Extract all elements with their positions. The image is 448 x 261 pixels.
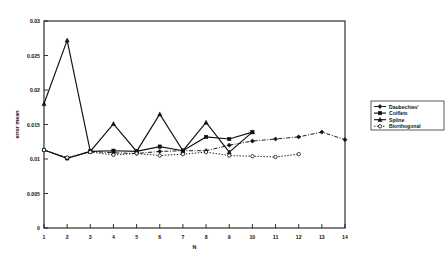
y-tick-label: 0.02 [30, 87, 40, 93]
data-point-marker [181, 152, 184, 155]
y-tick-label: 0.025 [27, 53, 40, 59]
x-tick-label: 11 [273, 234, 279, 240]
x-tick-label: 1 [43, 234, 46, 240]
y-tick-label: 0 [37, 225, 40, 231]
data-point-marker [65, 156, 68, 159]
data-point-marker [158, 145, 161, 148]
data-point-marker [89, 150, 92, 153]
data-point-marker [378, 125, 381, 128]
series-daubechies- [42, 130, 347, 160]
x-tick-label: 7 [181, 234, 184, 240]
data-point-marker [111, 122, 115, 126]
data-point-marker [204, 150, 207, 153]
data-point-marker [378, 111, 381, 114]
data-point-marker [42, 148, 45, 151]
data-point-marker [228, 154, 231, 157]
data-point-marker [227, 143, 231, 147]
data-point-marker [274, 155, 277, 158]
legend-label: Daubechies' [389, 104, 419, 110]
legend-label: Spline [389, 117, 404, 123]
x-tick-label: 8 [205, 234, 208, 240]
data-point-marker [158, 112, 162, 116]
legend: Daubechies'CoifletsSplineBiorthogonal [371, 101, 444, 130]
x-tick-label: 2 [66, 234, 69, 240]
x-tick-label: 14 [342, 234, 348, 240]
data-point-marker [250, 139, 254, 143]
data-point-marker [320, 130, 324, 134]
y-tick-label: 0.01 [30, 156, 40, 162]
legend-label: Coiflets [389, 110, 408, 116]
x-axis-title: N [193, 244, 197, 250]
series-line [44, 150, 299, 158]
x-tick-label: 3 [89, 234, 92, 240]
x-tick-label: 10 [249, 234, 255, 240]
x-tick-label: 12 [296, 234, 302, 240]
series-coiflets [42, 130, 254, 160]
data-point-marker [204, 120, 208, 124]
data-point-marker [204, 135, 207, 138]
series-line [44, 40, 252, 152]
data-point-marker [343, 138, 347, 142]
legend-label: Biorthogonal [389, 123, 421, 129]
x-tick-label: 13 [319, 234, 325, 240]
y-tick-label: 0.03 [30, 18, 40, 24]
error-mean-vs-n-line-chart: 00.0050.010.0150.020.0250.03123456789101… [0, 0, 448, 261]
data-point-marker [158, 154, 161, 157]
data-point-marker [273, 137, 277, 141]
data-point-marker [65, 38, 69, 42]
x-tick-label: 6 [158, 234, 161, 240]
data-point-marker [297, 135, 301, 139]
series-spline [42, 38, 255, 154]
x-tick-label: 4 [112, 234, 115, 240]
data-point-marker [297, 152, 300, 155]
data-point-marker [112, 153, 115, 156]
data-point-marker [135, 152, 138, 155]
data-point-marker [158, 149, 162, 153]
data-point-marker [251, 155, 254, 158]
x-tick-label: 5 [135, 234, 138, 240]
plot-frame [44, 21, 345, 228]
y-axis-title: error mean [14, 110, 20, 138]
x-tick-label: 9 [228, 234, 231, 240]
data-point-marker [42, 102, 46, 106]
y-tick-label: 0.015 [27, 122, 40, 128]
data-point-marker [228, 137, 231, 140]
data-point-marker [112, 149, 115, 152]
y-tick-label: 0.005 [27, 191, 40, 197]
chart-figure: 00.0050.010.0150.020.0250.03123456789101… [0, 0, 448, 261]
